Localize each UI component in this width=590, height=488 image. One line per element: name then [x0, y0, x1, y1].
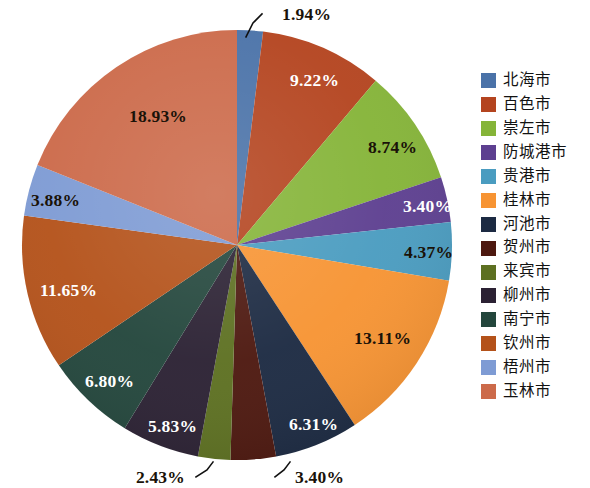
slice-percentage-label: 9.22% — [290, 70, 339, 90]
legend-item-label: 柳州市 — [503, 288, 551, 304]
legend-item-label: 河池市 — [503, 217, 551, 233]
slice-percentage-label: 6.80% — [85, 371, 134, 391]
legend-item-label: 来宾市 — [503, 264, 551, 280]
legend-item[interactable]: 桂林市 — [481, 188, 589, 212]
pie-chart-figure: 18.93%9.22%8.74%3.40%4.37%13.11%6.31%5.8… — [0, 0, 590, 488]
legend-color-swatch — [481, 288, 496, 303]
pie-sheen-overlay — [22, 30, 452, 460]
legend-item-label: 钦州市 — [503, 336, 551, 352]
legend-color-swatch — [481, 145, 496, 160]
legend-item[interactable]: 防城港市 — [481, 141, 589, 165]
legend-item-label: 防城港市 — [503, 145, 567, 161]
legend-item[interactable]: 百色市 — [481, 93, 589, 117]
slice-percentage-label: 3.88% — [31, 190, 80, 210]
legend-item-label: 贺州市 — [503, 240, 551, 256]
legend-color-swatch — [481, 169, 496, 184]
legend-item-label: 百色市 — [503, 97, 551, 113]
legend-item[interactable]: 崇左市 — [481, 117, 589, 141]
legend-item[interactable]: 钦州市 — [481, 332, 589, 356]
chart-legend: 北海市百色市崇左市防城港市贵港市桂林市河池市贺州市来宾市柳州市南宁市钦州市梧州市… — [481, 69, 589, 403]
legend-color-swatch — [481, 217, 496, 232]
legend-item[interactable]: 梧州市 — [481, 356, 589, 380]
legend-color-swatch — [481, 193, 496, 208]
legend-color-swatch — [481, 336, 496, 351]
slice-percentage-label: 3.40% — [403, 196, 452, 216]
legend-color-swatch — [481, 73, 496, 88]
legend-item-label: 桂林市 — [503, 193, 551, 209]
legend-item-label: 贵港市 — [503, 169, 551, 185]
slice-percentage-label: 1.94% — [282, 4, 331, 24]
slice-percentage-label: 5.83% — [148, 416, 197, 436]
legend-item[interactable]: 河池市 — [481, 212, 589, 236]
legend-item[interactable]: 玉林市 — [481, 380, 589, 404]
legend-color-swatch — [481, 121, 496, 136]
legend-color-swatch — [481, 265, 496, 280]
legend-item-label: 南宁市 — [503, 312, 551, 328]
leader-line — [196, 462, 213, 477]
leader-line — [275, 462, 290, 477]
legend-item-label: 北海市 — [503, 73, 551, 89]
slice-percentage-label: 11.65% — [40, 280, 97, 300]
legend-color-swatch — [481, 241, 496, 256]
slice-percentage-label: 4.37% — [404, 242, 453, 262]
legend-color-swatch — [481, 360, 496, 375]
legend-item[interactable]: 贺州市 — [481, 236, 589, 260]
legend-color-swatch — [481, 384, 496, 399]
slice-percentage-label: 3.40% — [295, 467, 344, 487]
slice-percentage-label: 8.74% — [368, 137, 417, 157]
legend-item[interactable]: 来宾市 — [481, 260, 589, 284]
legend-item-label: 梧州市 — [503, 360, 551, 376]
slice-percentage-label: 18.93% — [129, 106, 187, 126]
slice-percentage-label: 2.43% — [136, 467, 185, 487]
legend-item-label: 玉林市 — [503, 384, 551, 400]
legend-item-label: 崇左市 — [503, 121, 551, 137]
legend-item[interactable]: 柳州市 — [481, 284, 589, 308]
legend-item[interactable]: 北海市 — [481, 69, 589, 93]
legend-color-swatch — [481, 97, 496, 112]
slice-percentage-label: 13.11% — [354, 328, 411, 348]
legend-item[interactable]: 贵港市 — [481, 165, 589, 189]
legend-item[interactable]: 南宁市 — [481, 308, 589, 332]
legend-color-swatch — [481, 312, 496, 327]
slice-percentage-label: 6.31% — [289, 414, 338, 434]
